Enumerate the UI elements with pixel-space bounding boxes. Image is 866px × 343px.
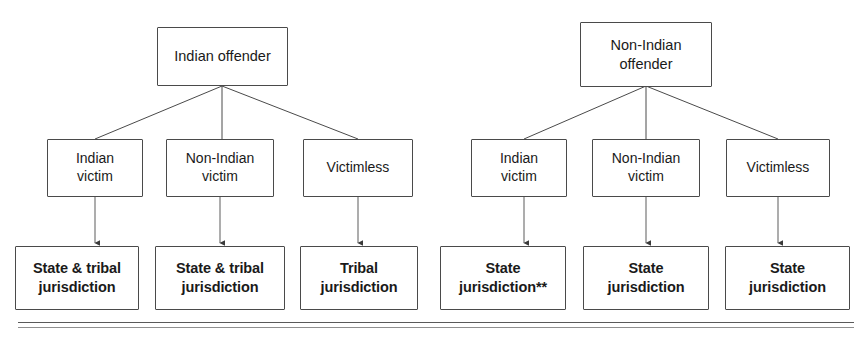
node-root-non-indian-offender: Non-Indian offender xyxy=(580,22,712,87)
node-label: Victimless xyxy=(743,159,814,177)
footer-divider-lower xyxy=(18,327,854,328)
outcome-state-jurisdiction-footnoted: State jurisdiction** xyxy=(440,246,566,310)
outcome-state-jurisdiction-2: State jurisdiction xyxy=(583,246,709,310)
node-label: Indian offender xyxy=(170,47,274,66)
node-root-indian-offender: Indian offender xyxy=(157,27,288,86)
node-label: Non-Indian victim xyxy=(182,150,259,186)
outcome-state-and-tribal-jurisdiction-2: State & tribal jurisdiction xyxy=(155,246,285,310)
outcome-label: State & tribal jurisdiction xyxy=(172,259,268,296)
node-victimless-right: Victimless xyxy=(726,139,830,197)
node-indian-victim-right: Indian victim xyxy=(471,139,567,197)
node-victimless-left: Victimless xyxy=(303,139,413,197)
outcome-label: Tribal jurisdiction xyxy=(317,259,402,296)
node-label: Indian victim xyxy=(72,150,118,186)
outcome-label: State jurisdiction xyxy=(745,259,830,296)
outcome-tribal-jurisdiction: Tribal jurisdiction xyxy=(300,246,418,310)
node-non-indian-victim-left: Non-Indian victim xyxy=(166,139,274,197)
outcome-state-and-tribal-jurisdiction-1: State & tribal jurisdiction xyxy=(15,246,139,310)
node-label: Non-Indian victim xyxy=(608,150,685,186)
node-non-indian-victim-right: Non-Indian victim xyxy=(592,139,700,197)
outcome-label: State jurisdiction xyxy=(604,259,689,296)
node-label: Non-Indian offender xyxy=(607,36,686,73)
node-indian-victim-left: Indian victim xyxy=(47,139,143,197)
jurisdiction-flowchart: Indian offender Non-Indian offender Indi… xyxy=(0,0,866,343)
outcome-label: State jurisdiction** xyxy=(455,259,551,296)
outcome-state-jurisdiction-3: State jurisdiction xyxy=(725,246,850,310)
node-label: Victimless xyxy=(323,159,394,177)
outcome-label: State & tribal jurisdiction xyxy=(29,259,125,296)
footer-divider-upper xyxy=(18,322,854,323)
node-label: Indian victim xyxy=(496,150,542,186)
